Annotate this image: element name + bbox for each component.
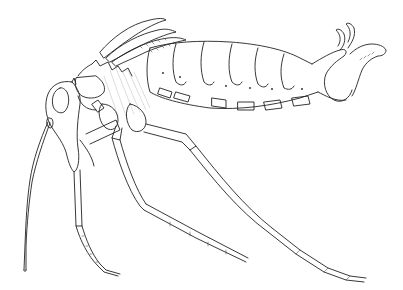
head	[46, 78, 80, 172]
antenna	[24, 122, 50, 272]
terminalia	[312, 23, 386, 101]
abdomen	[147, 41, 318, 110]
midleg	[99, 104, 248, 262]
hindleg	[126, 104, 366, 282]
illustration-canvas: Insect line drawing (lateral view)	[0, 0, 403, 290]
insect-drawing	[0, 0, 403, 290]
